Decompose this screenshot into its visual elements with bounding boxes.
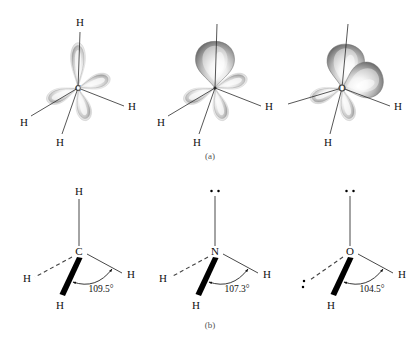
water-h-bottom-label: H <box>324 136 332 148</box>
water-bottom-h-label: H <box>327 299 335 311</box>
methane-angle-label: 109.5° <box>88 284 113 294</box>
ammonia-h-bottom-label: H <box>193 136 201 148</box>
ammonia-h-left-label: H <box>157 116 165 128</box>
methane-center-atom-label: C <box>75 245 82 257</box>
water-lone-pair-left-dot-2 <box>302 286 305 289</box>
methane-right-h-label: H <box>127 268 135 280</box>
ammonia-bottom-h-label: H <box>192 299 200 311</box>
methane-bottom-h-label: H <box>56 299 64 311</box>
ammonia-right-h-label: H <box>263 268 271 280</box>
water-lone-pair-left-dot-1 <box>303 280 306 283</box>
water-center-label: O <box>339 83 345 93</box>
ammonia-center-node <box>213 86 216 89</box>
methane-center-label: C <box>75 83 81 93</box>
water-lone-pair-top-dot-2 <box>352 190 355 193</box>
methane-h-right-label: H <box>128 100 136 112</box>
ammonia-h-right-label: H <box>265 100 273 112</box>
orbital-geometry-figure: C H H H H <box>0 0 420 341</box>
ammonia-left-h-label: H <box>159 272 167 284</box>
water-lone-pair-top-dot-1 <box>345 190 348 193</box>
methane-h-bottom-label: H <box>56 136 64 148</box>
panel-a-caption: (a) <box>205 151 215 161</box>
ammonia-angle-label: 107.3° <box>224 284 249 294</box>
methane-h-top-label: H <box>76 16 84 28</box>
water-right-h-label: H <box>398 268 406 280</box>
water-h-right-label: H <box>394 100 402 112</box>
methane-left-h-label: H <box>23 272 31 284</box>
water-center-atom-label: O <box>346 245 354 257</box>
ammonia-lone-pair-dot-2 <box>217 190 220 193</box>
methane-h-left-label: H <box>20 116 28 128</box>
figure-canvas: C H H H H <box>0 0 420 341</box>
panel-b-caption: (b) <box>205 320 216 330</box>
methane-top-h-label: H <box>75 185 83 197</box>
ammonia-lone-pair-dot-1 <box>210 190 213 193</box>
ammonia-center-atom-label: N <box>211 245 219 257</box>
water-angle-label: 104.5° <box>359 284 384 294</box>
